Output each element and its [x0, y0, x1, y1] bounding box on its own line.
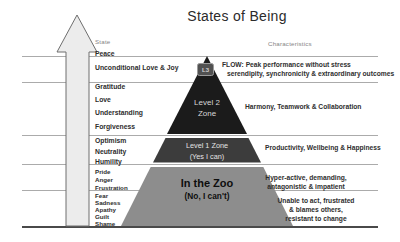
l3-badge: L3 [197, 63, 214, 76]
level-2-zone-label: Level 2 Zone [167, 97, 247, 119]
state-label-shame: Shame [95, 220, 115, 227]
state-label-gratitude: Gratitude [95, 83, 125, 90]
characteristic-productivity: Productivity, Wellbeing & Happiness [265, 144, 381, 151]
level-2-line1: Level 2 [167, 97, 247, 108]
characteristic-hyperactive: Hyper-active, demanding, antagonistic & … [256, 173, 356, 191]
level-2-line2: Zone [167, 108, 247, 119]
unable-line1: Unable to act, frustrated [266, 196, 366, 205]
state-label-sadness: Sadness [95, 199, 120, 206]
state-label-forgiveness: Forgiveness [95, 123, 135, 130]
state-label-frustration: Frustration [95, 184, 128, 191]
state-label-fear: Fear [95, 192, 108, 199]
up-arrow-icon [57, 15, 97, 226]
characteristics-column-label: Characteristics [268, 40, 312, 47]
hyper-line1: Hyper-active, demanding, [256, 173, 356, 182]
unable-line3: resistant to change [266, 214, 366, 223]
characteristic-harmony: Harmony, Teamwork & Collaboration [245, 103, 361, 110]
characteristic-flow: FLOW: Peak performance without stress se… [222, 60, 394, 78]
state-label-neutrality: Neutrality [95, 148, 126, 155]
pyramid-level-1-zone: Level 1 Zone (Yes I can) [153, 138, 261, 163]
state-label-humility: Humility [95, 158, 122, 165]
level-1-zone-label: Level 1 Zone (Yes I can) [153, 140, 261, 162]
flow-line1: FLOW: Peak performance without stress [222, 60, 394, 69]
diagram-title: States of Being [137, 8, 337, 24]
state-label-optimism: Optimism [95, 137, 126, 144]
hyper-line2: antagonistic & impatient [256, 182, 356, 191]
level-1-line1: Level 1 Zone [153, 140, 261, 151]
state-label-peace: Peace [95, 50, 115, 57]
state-label-understanding: Understanding [95, 109, 143, 116]
level-1-line2: (Yes I can) [153, 151, 261, 162]
states-of-being-diagram: States of Being State Characteristics Pe… [0, 0, 400, 242]
state-label-anger: Anger [95, 176, 113, 183]
unable-line2: & blames others, [266, 205, 366, 214]
state-label-pride: Pride [95, 168, 110, 175]
state-axis-label: State [95, 38, 110, 45]
flow-line2: serendipity, synchronicity & extraordina… [222, 69, 394, 78]
state-label-apathy: Apathy [95, 206, 116, 213]
characteristic-unable: Unable to act, frustrated & blames other… [266, 196, 366, 223]
state-label-love: Love [95, 96, 111, 103]
state-label-unconditional-love: Unconditional Love & Joy [95, 64, 178, 71]
